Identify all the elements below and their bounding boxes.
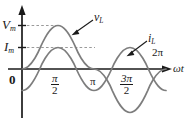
y-axis-label-im-sub: m: [8, 46, 14, 55]
waveform-figure: Vm Im 0 π 2 π 3π 2 2π ωt vL iL: [0, 0, 189, 127]
x-tick-three-half-pi-denominator: 2: [120, 85, 133, 96]
x-tick-label-three-half-pi: 3π 2: [120, 73, 133, 96]
origin-label: 0: [9, 73, 16, 86]
y-axis-label-vm: Vm: [2, 18, 16, 33]
x-tick-label-half-pi: π 2: [51, 73, 59, 96]
il-pointer-line: [131, 41, 147, 53]
x-tick-label-two-pi: 2π: [152, 47, 163, 58]
y-axis-arrowhead: [18, 5, 25, 15]
x-axis-label: ωt: [173, 63, 184, 74]
curve-label-il-sub: L: [151, 37, 155, 46]
curve-label-vl: vL: [94, 11, 103, 24]
vl-pointer-line: [76, 20, 93, 32]
y-axis-label-vm-main: V: [2, 17, 10, 32]
y-axis-label-vm-sub: m: [10, 24, 16, 33]
curve-label-vl-sub: L: [99, 16, 103, 25]
y-axis-label-im: Im: [4, 40, 14, 55]
curve-label-il: iL: [148, 32, 155, 45]
x-tick-label-pi: π: [90, 76, 96, 87]
x-tick-half-pi-denominator: 2: [51, 85, 59, 96]
